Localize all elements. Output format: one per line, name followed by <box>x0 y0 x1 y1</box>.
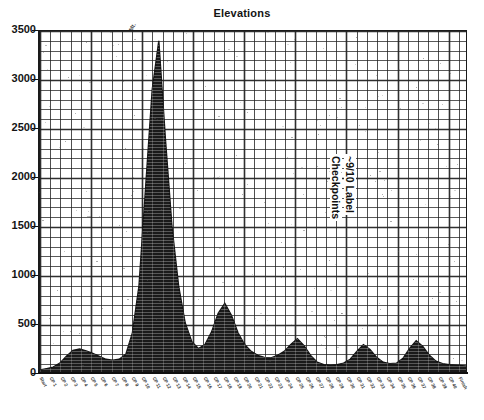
scan-speck <box>176 324 178 325</box>
scan-speck <box>380 309 381 310</box>
scan-speck <box>70 331 71 332</box>
scan-speck <box>43 52 44 53</box>
scan-speck <box>125 148 126 149</box>
scan-speck <box>118 44 119 45</box>
scan-speck <box>134 115 135 116</box>
y-tick-label: 2500 <box>2 121 36 133</box>
scan-speck <box>330 75 331 76</box>
scan-speck <box>131 195 132 196</box>
scan-speck <box>281 242 282 243</box>
scan-speck <box>326 197 327 198</box>
scan-speck <box>126 231 127 232</box>
scan-speck <box>327 181 328 182</box>
scan-speck <box>446 166 447 167</box>
scan-speck <box>341 107 342 108</box>
scan-speck <box>42 220 44 221</box>
x-tick-label: CP 38 <box>427 376 437 390</box>
scan-speck <box>254 123 255 124</box>
y-tick-label: 500 <box>2 317 36 329</box>
scan-speck <box>362 328 363 329</box>
chart-title: Elevations <box>0 7 484 19</box>
scan-speck <box>398 69 400 70</box>
scan-speck <box>128 353 129 354</box>
scan-speck <box>171 324 172 325</box>
scan-speck <box>281 277 282 278</box>
scan-speck <box>379 303 380 304</box>
x-tick-label: CP 40 <box>447 376 457 390</box>
x-tick-label: CP 10 <box>141 376 151 390</box>
scan-speck <box>87 216 89 217</box>
scan-speck <box>359 125 360 126</box>
scan-speck <box>390 221 392 222</box>
x-tick-label: CP 3 <box>69 376 78 387</box>
scan-speck <box>247 356 248 357</box>
scan-speck <box>413 279 414 280</box>
scan-speck <box>456 41 457 42</box>
scan-speck <box>197 190 198 191</box>
scan-speck <box>365 107 366 108</box>
scan-speck <box>219 176 220 177</box>
scan-speck <box>68 77 69 78</box>
scan-speck <box>116 56 117 57</box>
scan-speck <box>59 147 61 148</box>
scan-speck <box>111 337 112 338</box>
scan-speck <box>267 320 268 321</box>
x-tick-label: CP 18 <box>223 376 233 390</box>
scan-speck <box>418 284 419 285</box>
scan-speck <box>321 344 322 345</box>
scan-speck <box>378 96 379 97</box>
scan-speck <box>456 301 457 302</box>
scan-speck <box>119 225 120 226</box>
scan-speck <box>334 320 335 321</box>
scan-speck <box>450 196 451 197</box>
x-tick-label: CP 13 <box>171 376 181 390</box>
scan-speck <box>163 190 164 191</box>
scan-speck <box>154 118 156 119</box>
annotation-line-1: ~9/10 Label <box>344 154 356 215</box>
scan-speck <box>213 343 214 344</box>
scan-speck <box>295 93 296 94</box>
scan-speck <box>290 62 291 63</box>
scan-speck <box>416 254 417 255</box>
scan-speck <box>323 48 324 49</box>
scan-speck <box>156 53 157 54</box>
scan-speck <box>345 369 347 370</box>
x-axis-tick-labels: StartCP 1CP 2CP 3CP 4CP 5CP 6CP 7CP 8CP … <box>0 374 484 420</box>
scan-speck <box>79 75 80 76</box>
scan-speck <box>165 336 166 337</box>
scan-speck <box>57 290 58 291</box>
scan-speck <box>242 194 243 195</box>
scan-speck <box>99 216 100 217</box>
x-tick-label: CP 34 <box>386 376 396 390</box>
scan-speck <box>269 361 271 362</box>
scan-speck <box>391 190 392 191</box>
scan-speck <box>155 228 156 229</box>
scan-speck <box>64 251 65 252</box>
scan-speck <box>450 73 451 74</box>
scan-speck <box>335 264 336 265</box>
scan-speck <box>147 297 148 298</box>
x-tick-label: CP 12 <box>161 376 171 390</box>
x-tick-label: CP 4 <box>80 376 89 387</box>
scan-speck <box>311 311 313 312</box>
x-tick-label: CP 24 <box>284 376 294 390</box>
scan-speck <box>339 98 341 99</box>
x-tick-label: CP 5 <box>90 376 99 387</box>
scan-speck <box>426 238 427 239</box>
scan-speck <box>325 348 326 349</box>
scan-speck <box>251 248 252 249</box>
scan-speck <box>370 175 371 176</box>
scan-speck <box>198 299 199 300</box>
y-tick-label: 1000 <box>2 268 36 280</box>
scan-speck <box>293 173 294 174</box>
scan-speck <box>291 324 292 325</box>
scan-speck <box>439 292 441 293</box>
scan-speck <box>238 232 239 233</box>
scan-speck <box>461 360 463 361</box>
x-tick-label: CP 35 <box>396 376 406 390</box>
x-tick-label: CP 20 <box>243 376 253 390</box>
scan-speck <box>213 177 214 178</box>
scan-speck <box>86 191 87 192</box>
scan-speck <box>252 274 253 275</box>
scan-speck <box>110 32 112 33</box>
